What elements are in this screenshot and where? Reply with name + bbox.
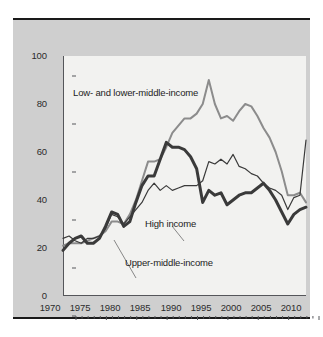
figure-container: 100 80 60 40 20 0 1970 1975 1980 1985 19…	[0, 0, 323, 337]
xtick-label-1970: 1970	[33, 303, 67, 313]
xtick-label-1975: 1975	[63, 303, 97, 313]
xtick-label-1985: 1985	[123, 303, 157, 313]
series-line-upper-middle-income	[63, 142, 306, 250]
xtick-label-1995: 1995	[184, 303, 218, 313]
xtick-label-1990: 1990	[154, 303, 188, 313]
ytick-label-100: 100	[21, 51, 47, 61]
series-label-low-and-lower-middle-income: Low- and lower-middle-income	[73, 87, 198, 98]
series-label-high-income: High income	[145, 218, 196, 229]
series-label-upper-middle-income: Upper-middle-income	[125, 257, 213, 268]
ytick-label-0: 0	[21, 291, 47, 301]
ytick-label-80: 80	[21, 99, 47, 109]
ytick-label-20: 20	[21, 243, 47, 253]
xtick-label-2010: 2010	[274, 303, 308, 313]
chart-panel: 100 80 60 40 20 0 1970 1975 1980 1985 19…	[13, 20, 310, 317]
xtick-label-1980: 1980	[93, 303, 127, 313]
xtick-label-2005: 2005	[244, 303, 278, 313]
ytick-label-40: 40	[21, 195, 47, 205]
bottom-rule	[13, 317, 310, 319]
ytick-label-60: 60	[21, 147, 47, 157]
xtick-label-2000: 2000	[214, 303, 248, 313]
